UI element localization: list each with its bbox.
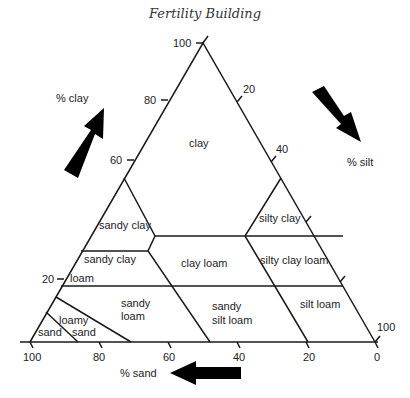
silt-tick: 100 xyxy=(377,321,395,333)
region-loamy-sand: sand xyxy=(72,326,96,338)
sand-arrow-icon xyxy=(170,361,241,385)
silt-axis-label: % silt xyxy=(347,156,373,168)
clay-tick: 80 xyxy=(144,94,156,106)
region-clay-loam: clay loam xyxy=(181,257,227,269)
sand-tick: 60 xyxy=(163,351,175,363)
region-sandy-silt-loam: sandy xyxy=(212,300,242,312)
clay-arrow-icon xyxy=(64,108,104,178)
sand-tick: 0 xyxy=(374,351,380,363)
region-sandy-loam: loam xyxy=(121,310,145,322)
region-silty-clay: silty clay xyxy=(259,212,301,224)
region-silt-loam: silt loam xyxy=(300,298,340,310)
region-sandy-silt-loam: silt loam xyxy=(212,314,252,326)
sand-tick: 20 xyxy=(303,351,315,363)
region-loamy-sand: loamy xyxy=(59,314,89,326)
region-sandy-clay-loam: sandy clay xyxy=(84,253,136,265)
clay-tick: 20 xyxy=(42,273,54,285)
silt-tick: 40 xyxy=(276,143,288,155)
sand-tick: 80 xyxy=(93,351,105,363)
sand-axis-label: % sand xyxy=(120,367,157,379)
clay-tick: 60 xyxy=(110,154,122,166)
region-sandy-loam: sandy xyxy=(121,297,151,309)
silt-tick: 20 xyxy=(243,83,255,95)
region-silty-clay-loam: silty clay loam xyxy=(260,254,328,266)
silt-arrow-icon xyxy=(312,86,361,142)
region-sandy-clay: sandy clay xyxy=(99,219,151,231)
region-clay: clay xyxy=(189,137,209,149)
region-loam: loam xyxy=(70,272,94,284)
clay-tick: 100 xyxy=(173,37,191,49)
soil-texture-triangle: % clay % silt % sand 100 80 60 20 20 40 … xyxy=(0,0,410,398)
region-sand: sand xyxy=(38,326,62,338)
sand-tick: 40 xyxy=(233,351,245,363)
clay-axis-label: % clay xyxy=(56,92,89,104)
sand-tick: 100 xyxy=(23,351,41,363)
